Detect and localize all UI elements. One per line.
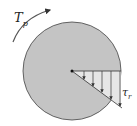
shaft-torsion-diagram: Tp τr bbox=[0, 0, 137, 126]
torque-label: Tp bbox=[14, 10, 28, 28]
stress-label: τr bbox=[122, 86, 131, 101]
center-point bbox=[71, 70, 74, 73]
